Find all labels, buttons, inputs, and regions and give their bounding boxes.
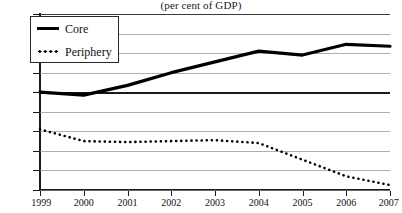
x-tick-label: 2004 — [249, 197, 269, 208]
y-tick-mark — [33, 73, 40, 74]
x-tick-mark — [346, 191, 347, 196]
x-tick-label: 2000 — [74, 197, 94, 208]
chart-subtitle: (per cent of GDP) — [0, 0, 402, 11]
x-tick-mark — [84, 191, 85, 196]
y-tick-mark — [33, 14, 40, 15]
y-tick-mark — [33, 170, 40, 171]
x-tick-mark — [390, 191, 391, 196]
x-tick-label: 2002 — [161, 197, 181, 208]
legend-label-core: Core — [65, 23, 88, 35]
y-tick-mark — [33, 190, 40, 191]
x-tick-label: 2007 — [379, 197, 399, 208]
x-tick-mark — [303, 191, 304, 196]
y-tick-mark — [33, 92, 40, 93]
chart-container: (per cent of GDP) 86420-2-4-6-8-10 19992… — [0, 0, 402, 213]
chart-legend: Core Periphery — [30, 16, 119, 63]
legend-line-dotted-icon — [37, 46, 59, 58]
series-line-periphery — [40, 129, 390, 185]
x-tick-label: 2001 — [118, 197, 138, 208]
y-tick-mark — [33, 112, 40, 113]
x-tick-mark — [128, 191, 129, 196]
x-tick-mark — [40, 191, 41, 196]
x-tick-label: 2006 — [336, 197, 356, 208]
x-tick-mark — [259, 191, 260, 196]
y-tick-mark — [33, 131, 40, 132]
x-tick-label: 2003 — [205, 197, 225, 208]
x-tick-label: 2005 — [293, 197, 313, 208]
x-tick-mark — [171, 191, 172, 196]
x-tick-mark — [215, 191, 216, 196]
legend-item-periphery: Periphery — [31, 40, 118, 63]
y-tick-mark — [33, 151, 40, 152]
x-tick-label: 1999 — [31, 197, 51, 208]
legend-line-solid-icon — [37, 23, 59, 35]
legend-label-periphery: Periphery — [65, 46, 112, 58]
legend-item-core: Core — [31, 17, 118, 40]
